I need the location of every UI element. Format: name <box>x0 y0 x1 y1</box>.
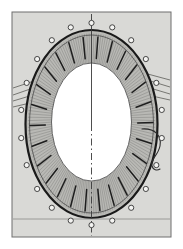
perimeter-marker <box>143 56 148 61</box>
perimeter-marker <box>49 38 54 43</box>
perimeter-marker <box>19 135 24 140</box>
perimeter-marker <box>129 205 134 210</box>
perimeter-marker <box>110 25 115 30</box>
figure-root: Oval coiled ring — plan view Technical l… <box>0 0 183 249</box>
perimeter-marker <box>129 38 134 43</box>
perimeter-marker <box>159 135 164 140</box>
perimeter-marker <box>154 80 159 85</box>
perimeter-marker <box>154 163 159 168</box>
perimeter-marker <box>89 222 94 227</box>
perimeter-marker <box>35 56 40 61</box>
perimeter-marker <box>24 80 29 85</box>
perimeter-marker <box>24 163 29 168</box>
technical-drawing-canvas <box>0 0 183 249</box>
perimeter-marker <box>143 186 148 191</box>
perimeter-marker <box>68 218 73 223</box>
perimeter-marker <box>89 20 94 25</box>
perimeter-marker <box>35 186 40 191</box>
perimeter-marker <box>19 107 24 112</box>
perimeter-marker <box>159 107 164 112</box>
perimeter-marker <box>49 205 54 210</box>
perimeter-marker <box>68 25 73 30</box>
perimeter-marker <box>110 218 115 223</box>
